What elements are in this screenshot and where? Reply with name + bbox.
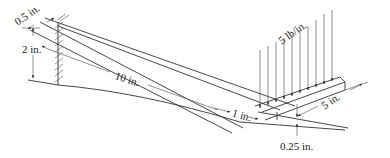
dim-label-0-5: 0.5 in. xyxy=(12,2,42,28)
dim-label-2: 2 in. xyxy=(22,43,42,55)
dim-label-10: 10 in. xyxy=(114,69,142,88)
dim-label-0-25: 0.25 in. xyxy=(280,140,314,152)
fixed-support-hatch xyxy=(55,14,69,85)
dim-label-5: 5 in. xyxy=(319,90,342,111)
beam-diagram: 5 lb/in. 0.5 in. 2 in. 10 in. 1 in. 5 in… xyxy=(0,0,390,158)
dim-label-1: 1 in. xyxy=(231,107,253,124)
tapered-beam xyxy=(28,18,295,133)
